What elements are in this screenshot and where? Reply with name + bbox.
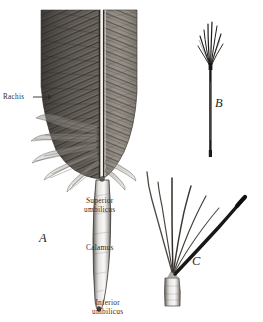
figure-letter-b: B (215, 96, 223, 111)
label-superior-umbilicus: Superior umbilicus (84, 196, 115, 214)
figure-letter-a: A (39, 231, 47, 246)
label-inferior-umbilicus: Inferior umbilicus (92, 298, 123, 316)
label-calamus: Calamus (86, 243, 114, 252)
feather-plate-illustration (0, 0, 263, 322)
label-rachis: Rachis (3, 93, 24, 102)
feather-anatomy-figure: Rachis Superior umbilicus Calamus Inferi… (0, 0, 263, 322)
figure-letter-c: C (192, 254, 200, 269)
